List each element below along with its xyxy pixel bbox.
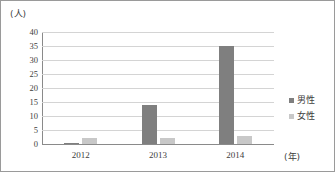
chart-legend: 男性女性: [289, 96, 315, 121]
legend-swatch-icon: [289, 114, 294, 119]
plot-area: 0510152025303540 201220132014: [42, 32, 274, 144]
y-axis-tick-label: 20: [30, 84, 39, 93]
bar-group: [64, 32, 97, 144]
bar-group: [219, 32, 252, 144]
bar-group: [142, 32, 175, 144]
legend-item-male[interactable]: 男性: [289, 96, 315, 105]
legend-label: 男性: [297, 96, 315, 105]
x-axis-tick-label: 2014: [226, 150, 244, 160]
bar-female-2013: [160, 138, 175, 144]
y-axis-tick-label: 30: [30, 56, 39, 65]
y-axis-tick-label: 15: [30, 98, 39, 107]
legend-item-female[interactable]: 女性: [289, 112, 315, 121]
y-axis-unit-label: (人): [10, 7, 26, 20]
y-axis-tick-label: 35: [30, 42, 39, 51]
y-axis-tick-label: 40: [30, 28, 39, 37]
bar-male-2014: [219, 46, 234, 144]
bar-female-2014: [237, 136, 252, 144]
y-axis-tick-label: 25: [30, 70, 39, 79]
y-axis-tick-label: 5: [34, 126, 38, 135]
legend-swatch-icon: [289, 98, 294, 103]
chart-container: (人) 0510152025303540 201220132014 (年) 男性…: [0, 0, 335, 172]
x-axis-tick-label: 2012: [72, 150, 90, 160]
legend-label: 女性: [297, 112, 315, 121]
bar-female-2012: [82, 138, 97, 144]
gridline: [42, 144, 274, 145]
bar-male-2012: [64, 143, 79, 144]
y-axis-tick-label: 0: [34, 140, 38, 149]
x-axis-unit-label: (年): [284, 150, 300, 163]
y-axis-tick-label: 10: [30, 112, 39, 121]
bar-male-2013: [142, 105, 157, 144]
x-axis-tick-label: 2013: [149, 150, 167, 160]
